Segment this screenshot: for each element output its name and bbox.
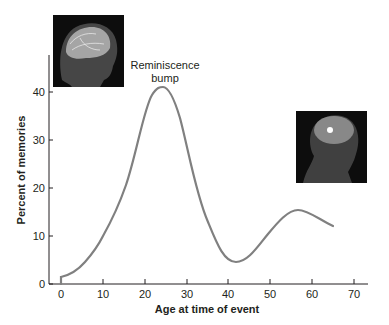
memory-curve: [61, 87, 333, 284]
svg-text:40: 40: [33, 86, 45, 98]
chart-canvas: 0 10 20 30 40 0 10 20 30 40 50 60 70 Age…: [0, 0, 389, 325]
y-ticks: 0 10 20 30 40: [33, 86, 53, 290]
svg-text:10: 10: [33, 230, 45, 242]
svg-text:30: 30: [33, 134, 45, 146]
svg-text:0: 0: [39, 278, 45, 290]
x-axis-title: Age at time of event: [155, 303, 260, 315]
annotation-line1: Reminiscence: [130, 59, 199, 71]
svg-text:50: 50: [264, 288, 276, 300]
x-ticks: 0 10 20 30 40 50 60 70: [58, 279, 360, 300]
svg-text:20: 20: [33, 182, 45, 194]
svg-text:60: 60: [306, 288, 318, 300]
svg-text:30: 30: [181, 288, 193, 300]
annotation-line2: bump: [151, 72, 179, 84]
y-axis-title: Percent of memories: [15, 116, 27, 225]
svg-text:70: 70: [348, 288, 360, 300]
adult-brain-image: [296, 111, 367, 183]
svg-text:10: 10: [97, 288, 109, 300]
infant-brain-image: [53, 15, 124, 87]
svg-text:20: 20: [139, 288, 151, 300]
svg-text:40: 40: [222, 288, 234, 300]
svg-text:0: 0: [58, 288, 64, 300]
